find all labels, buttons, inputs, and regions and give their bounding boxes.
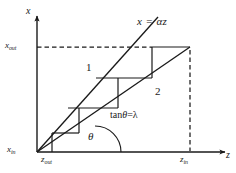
axes-group	[37, 16, 225, 152]
line-1-equation-label: x = αz	[137, 16, 167, 27]
z-in-tick-label: zin	[180, 155, 188, 164]
figure-container: x z xout xin zout zin x = αz tanθ=λ 1 2 …	[0, 0, 236, 173]
line-2-tan-theta-lambda	[37, 47, 190, 152]
angle-theta-arc	[95, 126, 121, 152]
angle-theta-label: θ	[88, 131, 93, 142]
x-axis-label: x	[26, 6, 30, 16]
x-in-tick-label: xin	[7, 145, 15, 154]
staircase-group	[52, 47, 152, 152]
x-in-subscript: in	[11, 149, 15, 155]
z-axis-label: z	[226, 150, 230, 160]
tan-theta-lambda-label: tanθ=λ	[110, 110, 138, 120]
curve-1-label: 1	[86, 62, 92, 73]
curve-2-label: 2	[155, 86, 161, 97]
z-out-subscript: out	[45, 159, 52, 165]
tan-suffix: =λ	[127, 109, 138, 120]
z-out-tick-label: zout	[41, 155, 52, 164]
line-1-x-equals-alpha-z	[37, 17, 158, 152]
x-out-tick-label: xout	[5, 41, 16, 50]
tan-prefix: tan	[110, 109, 122, 120]
x-out-subscript: out	[9, 45, 16, 51]
diagram-svg	[0, 0, 236, 173]
z-in-subscript: in	[184, 159, 188, 165]
